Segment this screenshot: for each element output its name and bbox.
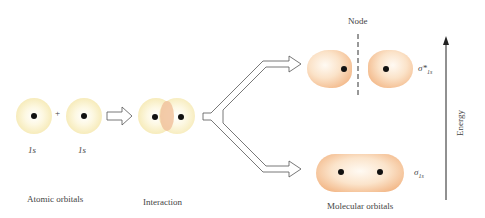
energy-axis-label: Energy: [455, 103, 465, 143]
arrows-layer: [0, 0, 485, 218]
node-label: Node: [348, 16, 368, 26]
antibonding-lobe-right: [368, 50, 413, 88]
bonding-subscript: 1s: [418, 173, 423, 179]
antibonding-symbol: σ*: [418, 63, 427, 73]
antibonding-subscript: 1s: [427, 69, 432, 75]
energy-arrowhead-icon: [443, 36, 449, 45]
hollow-arrow-icon: [107, 107, 132, 125]
antibonding-lobe-left: [307, 50, 352, 88]
bonding-label: σ1s: [414, 167, 424, 179]
antibonding-label: σ*1s: [418, 63, 432, 75]
bonding-orbital: [316, 154, 404, 192]
nucleus-dot: [383, 66, 389, 72]
nucleus-dot: [341, 66, 347, 72]
nucleus-dot: [377, 169, 383, 175]
branching-arrow-icon: [203, 56, 301, 177]
nucleus-dot: [338, 169, 344, 175]
molecular-orbitals-label: Molecular orbitals: [327, 201, 393, 211]
